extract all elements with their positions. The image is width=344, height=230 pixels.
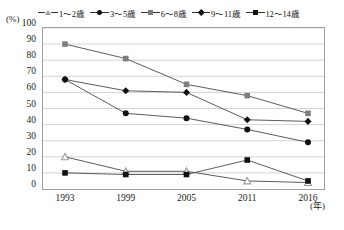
data-point-2-5 (305, 139, 311, 145)
y-axis-tick-labels: 1009080706050403020100 (0, 22, 40, 190)
y-tick-60: 60 (27, 82, 37, 92)
plot-area (42, 27, 325, 190)
legend-marker-diamond-icon (198, 9, 204, 15)
y-tick-50: 50 (27, 99, 37, 109)
data-point-2-3 (184, 115, 190, 121)
data-point-4-3 (183, 89, 190, 96)
data-point-5-2 (123, 172, 129, 178)
legend-label: 9～11歳 (210, 7, 241, 19)
y-tick-80: 80 (27, 50, 37, 60)
legend-item-1: 1～2歳 (38, 7, 86, 19)
legend-line-right (258, 12, 265, 13)
legend-label: 1～2歳 (58, 7, 86, 19)
chart-legend: 1～2歳3～5歳6～8歳9～11歳12～14歳 (38, 6, 338, 19)
legend-line-left (38, 12, 45, 13)
y-tick-30: 30 (27, 131, 37, 141)
data-point-3-2 (123, 56, 129, 62)
data-point-2-2 (123, 110, 129, 116)
chart-canvas (43, 28, 324, 189)
x-tick-1993: 1993 (56, 193, 75, 203)
y-tick-20: 20 (27, 147, 37, 157)
legend-line-left (90, 12, 97, 13)
y-tick-90: 90 (27, 34, 37, 44)
y-tick-0: 0 (31, 179, 36, 189)
legend-line-left (246, 12, 253, 13)
legend-label: 3～5歳 (109, 7, 137, 19)
legend-line-right (51, 12, 58, 13)
legend-line-left (141, 12, 148, 13)
data-point-4-2 (122, 87, 129, 94)
legend-line-right (102, 12, 109, 13)
data-point-3-5 (305, 111, 311, 117)
x-tick-1999: 1999 (116, 193, 135, 203)
data-point-4-4 (244, 116, 251, 123)
data-point-3-1 (62, 41, 68, 47)
data-point-5-4 (244, 157, 250, 163)
legend-item-5: 12～14歳 (246, 7, 301, 19)
data-point-3-3 (184, 82, 190, 88)
x-tick-2005: 2005 (177, 193, 196, 203)
legend-label: 6～8歳 (160, 7, 188, 19)
data-point-5-3 (184, 172, 190, 178)
legend-item-2: 3～5歳 (90, 7, 137, 19)
data-point-4-5 (304, 118, 311, 125)
x-tick-2011: 2011 (238, 193, 257, 203)
legend-item-4: 9～11歳 (192, 7, 242, 19)
x-axis-tick-labels: 19931999200520112016 (42, 193, 325, 209)
x-tick-2016: 2016 (299, 193, 318, 203)
chart-root: (%) (年) 1～2歳3～5歳6～8歳9～11歳12～14歳 10090807… (0, 0, 344, 230)
data-point-5-1 (62, 170, 68, 176)
legend-label: 12～14歳 (265, 7, 301, 19)
series-line-3 (65, 44, 308, 113)
data-point-2-4 (244, 126, 250, 132)
y-tick-40: 40 (27, 115, 37, 125)
y-tick-70: 70 (27, 66, 37, 76)
y-tick-10: 10 (27, 163, 37, 173)
legend-item-3: 6～8歳 (141, 7, 188, 19)
data-point-5-5 (305, 178, 311, 184)
y-tick-100: 100 (22, 18, 36, 28)
data-point-3-4 (244, 93, 250, 99)
legend-line-right (153, 12, 160, 13)
data-point-4-1 (61, 76, 68, 83)
